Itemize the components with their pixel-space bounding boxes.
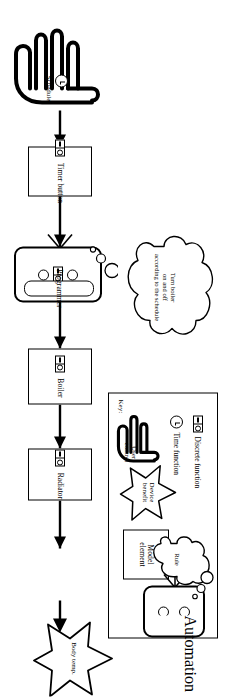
node-boiler[interactable]: Boiler — [28, 348, 92, 404]
hand-icon — [8, 14, 108, 110]
rule-cloud-programmer: Turn boiler on and off according to the … — [110, 226, 220, 348]
node-schedule[interactable]: Schedule — [8, 14, 108, 110]
cloud-icon — [110, 226, 220, 348]
node-programmer-label: Programmer — [55, 269, 63, 308]
time-function-icon — [170, 415, 183, 428]
node-radiator[interactable]: Radiator — [28, 448, 92, 500]
key-label-automation: Automation — [182, 615, 199, 691]
diagram-canvas: Schedule Timer button — [0, 0, 226, 699]
discrete-function-icon — [55, 139, 65, 156]
node-timer-button-label: Timer button — [56, 162, 64, 202]
node-boiler-label: Boiler — [56, 378, 64, 397]
diagram-rotated-layer: Schedule Timer button — [0, 0, 226, 699]
discrete-function-icon — [55, 449, 65, 466]
programmer-knob-top[interactable] — [67, 269, 78, 280]
node-timer-button[interactable]: Timer button — [28, 146, 92, 196]
key-shape-device-benefit: Device benefit — [119, 463, 177, 521]
time-function-icon — [55, 74, 68, 87]
discrete-function-icon — [55, 355, 65, 372]
key-cloud-tail-bubbles — [189, 569, 215, 603]
key-automation-display: Automation — [153, 615, 199, 629]
star-icon — [32, 620, 114, 696]
cloud-tail-bubbles — [84, 236, 118, 282]
node-schedule-label: Schedule — [45, 66, 52, 110]
discrete-function-icon — [193, 415, 203, 432]
key-label-discrete-function: Discrete function — [194, 436, 203, 488]
key-row-discrete-function: Discrete function — [193, 415, 203, 488]
node-radiator-label: Radiator — [56, 472, 64, 499]
key-legend-box: Key: Discrete function Time function — [108, 392, 218, 638]
node-body-temp[interactable]: Body temp. — [32, 620, 114, 696]
key-shape-user-control: User control — [111, 407, 163, 467]
programmer-knob-bottom[interactable] — [38, 269, 49, 280]
star-icon — [119, 463, 177, 521]
